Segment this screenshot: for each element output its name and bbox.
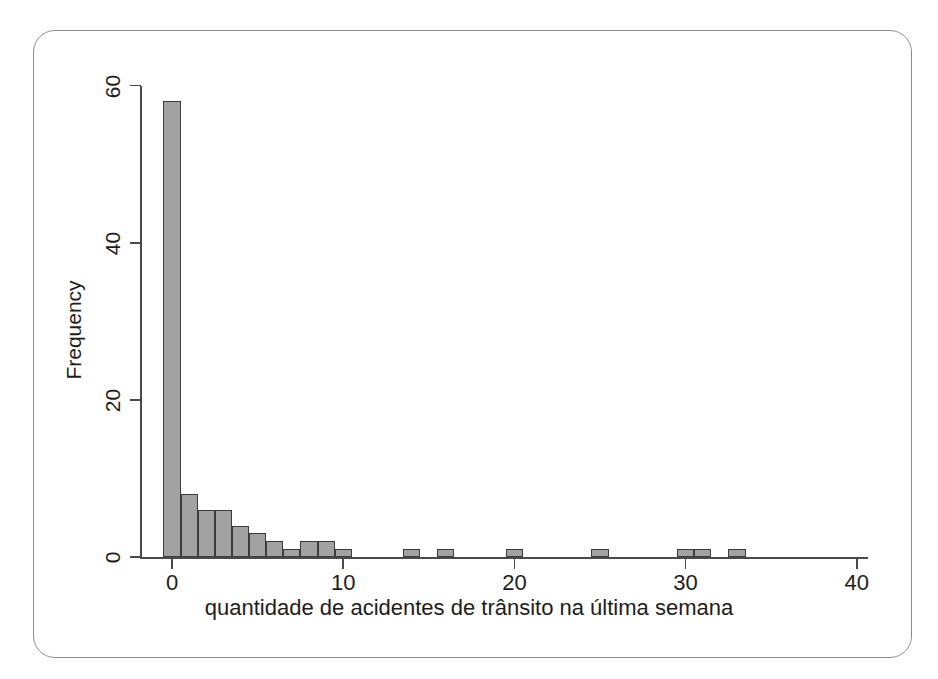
x-tick-label: 30 <box>656 570 716 596</box>
histogram-bar <box>215 510 232 557</box>
x-tick-mark <box>514 558 516 569</box>
histogram-bar <box>437 549 454 557</box>
histogram-bar <box>591 549 608 557</box>
histogram-bar <box>249 533 266 557</box>
y-axis-line <box>140 86 142 558</box>
histogram-bar <box>283 549 300 557</box>
histogram-bar <box>318 541 335 557</box>
histogram-bar <box>266 541 283 557</box>
x-tick-label: 40 <box>827 570 887 596</box>
histogram-plot-area: 0204060 010203040 Frequency quantidade d… <box>0 0 938 679</box>
histogram-bar <box>163 101 180 557</box>
x-axis-line <box>140 557 868 559</box>
y-tick-mark <box>130 85 141 87</box>
x-axis-title: quantidade de acidentes de trânsito na ú… <box>0 595 938 621</box>
y-tick-label: 0 <box>102 538 123 578</box>
x-tick-mark <box>342 558 344 569</box>
x-tick-label: 20 <box>484 570 544 596</box>
histogram-bar <box>728 549 745 557</box>
x-tick-mark <box>856 558 858 569</box>
histogram-bar <box>198 510 215 557</box>
x-tick-mark <box>171 558 173 569</box>
y-tick-label: 60 <box>102 66 123 106</box>
x-tick-label: 0 <box>142 570 202 596</box>
histogram-bar <box>232 526 249 557</box>
histogram-bar <box>403 549 420 557</box>
figure-root: 0204060 010203040 Frequency quantidade d… <box>0 0 938 679</box>
x-tick-mark <box>685 558 687 569</box>
y-tick-label: 20 <box>102 380 123 420</box>
histogram-bar <box>300 541 317 557</box>
histogram-bar <box>506 549 523 557</box>
histogram-bar <box>181 494 198 557</box>
histogram-bar <box>335 549 352 557</box>
y-axis-title: Frequency <box>62 230 86 430</box>
y-tick-mark <box>130 242 141 244</box>
y-tick-mark <box>130 556 141 558</box>
y-tick-mark <box>130 399 141 401</box>
histogram-bar <box>677 549 694 557</box>
histogram-bar <box>694 549 711 557</box>
y-tick-label: 40 <box>102 223 123 263</box>
x-tick-label: 10 <box>313 570 373 596</box>
